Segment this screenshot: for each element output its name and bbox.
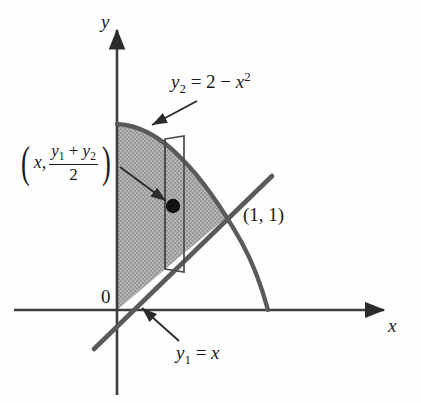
math-figure-area-between-curves: y x 0 y2 = 2 − x2 y1 = x (1, 1) ( x, y1 …: [0, 0, 421, 403]
midpoint-fraction-numerator: y1 + y2: [49, 142, 98, 165]
line-eq-operator: =: [191, 342, 211, 363]
midpoint-num-y2-subscript: 2: [90, 150, 96, 163]
line-equation-label: y1 = x: [176, 343, 220, 367]
intersection-point-label: (1, 1): [243, 205, 284, 224]
midpoint-num-y2: y: [83, 141, 91, 160]
midpoint-open-paren: (: [21, 145, 30, 180]
midpoint-x-component: x,: [34, 153, 47, 171]
line-leader-arrow: [142, 308, 179, 341]
curve-eq-term-exponent: 2: [244, 69, 250, 84]
origin-label: 0: [101, 287, 111, 306]
midpoint-num-y1: y: [51, 141, 59, 160]
midpoint-fraction-denominator: 2: [69, 165, 78, 183]
y-axis-label: y: [101, 12, 109, 31]
line-eq-term: x: [211, 342, 219, 363]
midpoint-close-paren: ): [102, 145, 111, 180]
curve-leader-arrow: [152, 101, 197, 125]
midpoint-num-plus: +: [64, 141, 82, 160]
midpoint-inner: x, y1 + y2 2: [33, 142, 99, 183]
x-axis-label: x: [388, 316, 396, 335]
midpoint-fraction: y1 + y2 2: [49, 142, 98, 183]
curve-eq-operator: = 2 −: [186, 71, 236, 92]
curve-equation-label: y2 = 2 − x2: [171, 71, 251, 96]
midpoint-dot: [166, 199, 180, 213]
curve-eq-term: x: [236, 71, 244, 92]
midpoint-coordinate-label: ( x, y1 + y2 2 ): [18, 142, 114, 183]
